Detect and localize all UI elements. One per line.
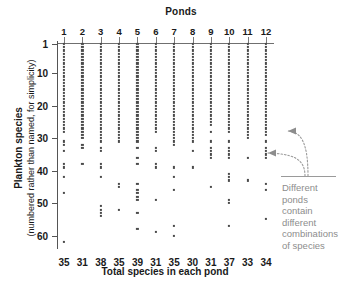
dot (247, 49, 249, 51)
dot (118, 72, 120, 74)
dot (247, 114, 249, 116)
dot (265, 72, 267, 74)
dot (118, 62, 120, 64)
dot (247, 105, 249, 107)
dot (118, 121, 120, 123)
dot (118, 82, 120, 84)
dot (173, 88, 175, 90)
dot (136, 98, 138, 100)
dot (173, 46, 175, 48)
dot (265, 153, 267, 155)
dot (155, 98, 157, 100)
dot (63, 127, 65, 129)
dot (63, 85, 65, 87)
dot (265, 134, 267, 136)
dot (118, 43, 120, 45)
dot (100, 166, 102, 168)
dot (210, 150, 212, 152)
dot (100, 150, 102, 152)
dot (228, 69, 230, 71)
dot (136, 212, 138, 214)
dot (155, 111, 157, 113)
dot (265, 75, 267, 77)
dot (136, 43, 138, 45)
dot (265, 82, 267, 84)
dot (265, 121, 267, 123)
dot (265, 114, 267, 116)
dot (63, 166, 65, 168)
dot (191, 114, 193, 116)
dot (247, 56, 249, 58)
dot (100, 59, 102, 61)
dot (247, 92, 249, 94)
dot (191, 69, 193, 71)
dot (228, 56, 230, 58)
dot (155, 49, 157, 51)
dot (118, 131, 120, 133)
dot (265, 101, 267, 103)
dot (173, 101, 175, 103)
dot (228, 225, 230, 227)
dot (100, 75, 102, 77)
dot (191, 127, 193, 129)
dot (191, 59, 193, 61)
dot (228, 202, 230, 204)
dot (155, 163, 157, 165)
dot (173, 144, 175, 146)
pond-header-11: 11 (243, 26, 253, 37)
dot (155, 101, 157, 103)
dot (136, 163, 138, 165)
dot (155, 231, 157, 233)
pond-header-10: 10 (224, 26, 235, 37)
y-tick-label-40: 40 (37, 165, 48, 176)
dot (210, 88, 212, 90)
dot (247, 62, 249, 64)
dot (81, 101, 83, 103)
dot (210, 98, 212, 100)
dot (81, 82, 83, 84)
dot (173, 75, 175, 77)
dot (191, 131, 193, 133)
dot (228, 150, 230, 152)
x-axis-title: Total species in each pond (40, 266, 290, 277)
dot (63, 98, 65, 100)
pond-header-9: 9 (208, 26, 213, 37)
dot (155, 72, 157, 74)
dot (63, 95, 65, 97)
dot (63, 105, 65, 107)
dot (173, 49, 175, 51)
dot (228, 88, 230, 90)
dot (100, 118, 102, 120)
dot (63, 56, 65, 58)
y-axis-title-main: Plankton species (13, 107, 25, 189)
dot (118, 92, 120, 94)
dot (100, 92, 102, 94)
dot (81, 98, 83, 100)
dot (155, 43, 157, 45)
dot (247, 46, 249, 48)
dot (247, 72, 249, 74)
dot (118, 56, 120, 58)
dot (247, 121, 249, 123)
dot (136, 66, 138, 68)
annotation-text: Different ponds contain different combin… (282, 182, 340, 252)
dot (136, 195, 138, 197)
dot (118, 98, 120, 100)
dot (100, 72, 102, 74)
dot (210, 95, 212, 97)
dot (247, 79, 249, 81)
y-tick-label-10: 10 (37, 68, 48, 79)
dot (81, 75, 83, 77)
dot (173, 118, 175, 120)
dot (100, 127, 102, 129)
arrow-head-upper (288, 127, 296, 134)
dot (136, 69, 138, 71)
dot (228, 157, 230, 159)
dot (173, 234, 175, 236)
dot (155, 69, 157, 71)
chart-title: Ponds (0, 6, 340, 17)
dot (247, 111, 249, 113)
dot (247, 53, 249, 55)
dot (191, 49, 193, 51)
dot (81, 108, 83, 110)
